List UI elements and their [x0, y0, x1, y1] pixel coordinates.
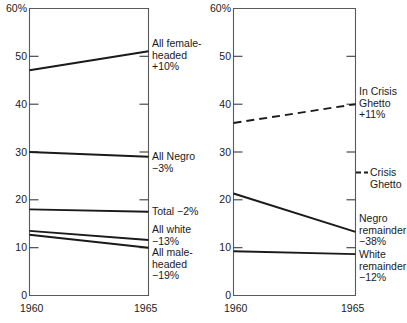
series-label-all-white: All white −13% [152, 224, 191, 247]
series-line-white-remainder [234, 251, 356, 254]
left-xtick-1960: 1960 [20, 303, 43, 314]
right-ytick-20: 20 [204, 194, 231, 205]
series-label-white-remainder: White remainder −12% [359, 249, 406, 284]
left-panel-series [30, 51, 149, 248]
series-label-negro-remainder: Negro remainder −38% [359, 213, 406, 248]
right-ytick-50: 50 [204, 51, 231, 62]
left-y-ticks-right [140, 56, 149, 247]
left-ytick-30: 30 [0, 147, 27, 158]
right-panel-series [234, 104, 356, 254]
chart-canvas [0, 0, 407, 323]
right-ytick-0: 0 [204, 290, 231, 301]
left-ytick-50: 50 [0, 51, 27, 62]
series-line-all-male-headed [30, 235, 149, 248]
right-y-ticks-right [347, 56, 356, 247]
two-panel-line-chart: 60% 50 40 30 20 10 0 1960 1965 All femal… [0, 0, 407, 323]
right-y-ticks [234, 56, 243, 247]
left-ytick-40: 40 [0, 99, 27, 110]
series-line-all-white [30, 231, 149, 240]
series-label-in-crisis-ghetto: In Crisis Ghetto +11% [359, 86, 397, 121]
right-ytick-30: 30 [204, 147, 231, 158]
series-line-negro-remainder [234, 194, 356, 232]
series-label-all-female-headed: All female- headed +10% [152, 38, 202, 73]
series-line-total [30, 209, 149, 211]
right-xtick-1965: 1965 [341, 303, 364, 314]
series-line-all-negro [30, 152, 149, 157]
legend-label-crisis-ghetto: Crisis Ghetto [370, 167, 402, 190]
right-ytick-10: 10 [204, 242, 231, 253]
left-ytick-10: 10 [0, 242, 27, 253]
left-ytick-60: 60% [0, 3, 27, 14]
series-label-total: Total −2% [152, 206, 198, 218]
series-label-all-male-headed: All male- headed −19% [152, 247, 193, 282]
left-xtick-1965: 1965 [134, 303, 157, 314]
series-line-all-female-headed [30, 51, 149, 70]
series-label-all-negro: All Negro −3% [152, 151, 195, 174]
left-ytick-0: 0 [0, 290, 27, 301]
series-line-in-crisis-ghetto [234, 104, 356, 123]
right-ytick-40: 40 [204, 99, 231, 110]
right-ytick-60: 60% [204, 3, 231, 14]
left-ytick-20: 20 [0, 194, 27, 205]
right-xtick-1960: 1960 [224, 303, 247, 314]
